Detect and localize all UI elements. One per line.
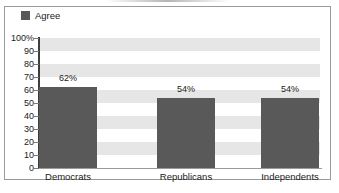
y-axis-tick-mark bbox=[34, 77, 39, 78]
bar bbox=[261, 98, 319, 168]
y-axis-tick-mark bbox=[34, 142, 39, 143]
bar-chart: Agree 0102030405060708090100% 62%54%54% … bbox=[0, 0, 339, 193]
grid-band bbox=[39, 64, 320, 77]
bar bbox=[39, 87, 97, 168]
y-axis-labels: 0102030405060708090100% bbox=[6, 0, 34, 193]
y-axis-tick-mark bbox=[34, 38, 39, 39]
y-axis-tick-mark bbox=[34, 64, 39, 65]
legend-label-agree: Agree bbox=[35, 11, 60, 21]
x-axis-category-label: Democrats bbox=[45, 172, 91, 182]
y-axis-tick-mark bbox=[34, 168, 39, 169]
y-axis-tick-label: 90 bbox=[6, 47, 34, 56]
y-axis-tick-label: 0 bbox=[6, 164, 34, 173]
y-axis-tick-label: 10 bbox=[6, 151, 34, 160]
bar bbox=[157, 98, 215, 168]
y-axis-tick-label: 60 bbox=[6, 86, 34, 95]
grid-band bbox=[39, 38, 320, 51]
y-axis-tick-mark bbox=[34, 51, 39, 52]
x-axis-category-label: Republicans bbox=[160, 172, 212, 182]
y-axis-tick-label: 100% bbox=[6, 34, 34, 43]
y-axis-tick-label: 40 bbox=[6, 112, 34, 121]
y-axis-tick-mark bbox=[34, 116, 39, 117]
x-axis-line bbox=[34, 168, 322, 169]
y-axis-tick-label: 50 bbox=[6, 99, 34, 108]
bar-value-label: 54% bbox=[281, 85, 299, 94]
bar-value-label: 62% bbox=[59, 74, 77, 83]
y-axis-tick-mark bbox=[34, 155, 39, 156]
y-axis-tick-label: 20 bbox=[6, 138, 34, 147]
y-axis-tick-mark bbox=[34, 103, 39, 104]
y-axis-tick-label: 30 bbox=[6, 125, 34, 134]
y-axis-tick-mark bbox=[34, 129, 39, 130]
y-axis-tick-label: 70 bbox=[6, 73, 34, 82]
x-axis-category-label: Independents bbox=[261, 172, 319, 182]
bar-value-label: 54% bbox=[177, 85, 195, 94]
y-axis-tick-mark bbox=[34, 90, 39, 91]
y-axis-tick-label: 80 bbox=[6, 60, 34, 69]
cropped-title-remnant bbox=[105, 0, 230, 2]
